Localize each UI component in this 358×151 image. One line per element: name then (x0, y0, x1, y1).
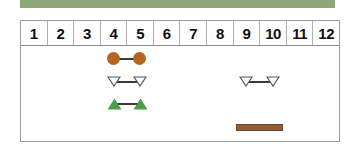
range-marker[interactable] (114, 52, 141, 66)
column-header-cell[interactable]: 8 (207, 21, 234, 45)
column-header-cell[interactable]: 7 (180, 21, 207, 45)
column-header-cell[interactable]: 10 (260, 21, 287, 45)
range-end-marker[interactable] (133, 75, 147, 89)
range-start-marker[interactable] (239, 75, 253, 89)
figure-canvas: 1 2 3 4 5 6 7 8 9 10 11 12 (0, 0, 358, 151)
circle-filled-icon (107, 52, 120, 65)
schedule-table: 1 2 3 4 5 6 7 8 9 10 11 12 (20, 20, 340, 142)
range-marker[interactable] (246, 75, 273, 89)
range-start-marker[interactable] (107, 75, 121, 89)
triangle-up-filled-icon (133, 98, 148, 110)
triangle-up-filled-icon (107, 98, 122, 110)
column-header-cell[interactable]: 9 (234, 21, 261, 45)
triangle-down-open-icon (266, 76, 280, 87)
range-marker[interactable] (114, 97, 141, 111)
range-end-marker[interactable] (133, 52, 147, 66)
range-end-marker[interactable] (133, 97, 147, 111)
table-header-row: 1 2 3 4 5 6 7 8 9 10 11 12 (21, 21, 339, 46)
column-header-cell[interactable]: 6 (154, 21, 181, 45)
green-banner (20, 0, 335, 8)
column-header-cell[interactable]: 5 (127, 21, 154, 45)
column-header-cell[interactable]: 4 (101, 21, 128, 45)
range-end-marker[interactable] (266, 75, 280, 89)
range-marker-area (21, 46, 339, 141)
column-header-cell[interactable]: 3 (74, 21, 101, 45)
range-start-marker[interactable] (107, 97, 121, 111)
column-header-cell[interactable]: 11 (287, 21, 314, 45)
range-marker[interactable] (114, 75, 141, 89)
circle-filled-icon (133, 52, 146, 65)
column-header-cell[interactable]: 1 (21, 21, 48, 45)
column-header-cell[interactable]: 12 (313, 21, 339, 45)
triangle-down-open-icon (239, 76, 253, 87)
column-header-cell[interactable]: 2 (48, 21, 75, 45)
range-bar-marker[interactable] (236, 124, 283, 131)
triangle-down-open-icon (133, 76, 147, 87)
range-start-marker[interactable] (107, 52, 121, 66)
triangle-down-open-icon (107, 76, 121, 87)
